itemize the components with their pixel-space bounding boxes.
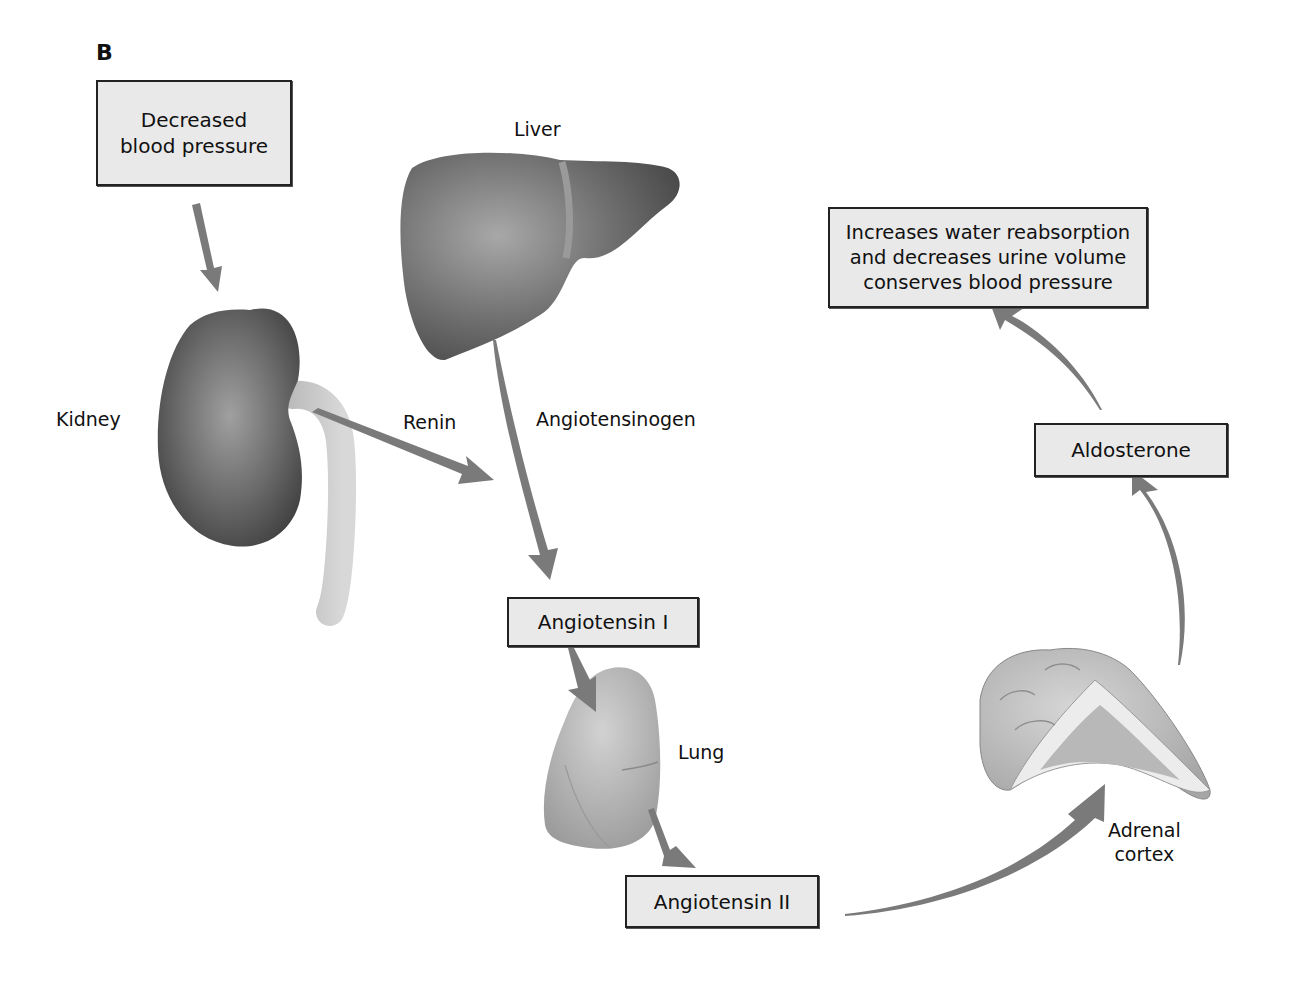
effect-line-1: Increases water reabsorption	[846, 220, 1130, 245]
arrow-bp-to-kidney	[192, 203, 222, 292]
angiotensin-1-box: Angiotensin I	[507, 597, 699, 647]
effect-line-3: conserves blood pressure	[863, 270, 1113, 295]
adrenal-label-line-1: Adrenal	[1108, 818, 1181, 842]
angiotensin-2-box: Angiotensin II	[625, 875, 819, 928]
aldosterone-box: Aldosterone	[1034, 423, 1228, 477]
angiotensin-2-label: Angiotensin II	[654, 889, 790, 915]
lung-label: Lung	[678, 740, 724, 764]
adrenal-cortex-label: Adrenal cortex	[1108, 818, 1181, 866]
adrenal-label-line-2: cortex	[1108, 842, 1181, 866]
panel-label: B	[96, 40, 113, 65]
liver-illustration	[400, 153, 679, 360]
adrenal-gland-illustration	[980, 648, 1210, 799]
effect-line-2: and decreases urine volume	[850, 245, 1127, 270]
decreased-blood-pressure-box: Decreased blood pressure	[96, 80, 292, 186]
kidney-label: Kidney	[56, 407, 121, 431]
arrow-angiotensinogen	[493, 340, 558, 580]
arrow-lung-to-angio2	[648, 808, 696, 868]
effect-box: Increases water reabsorption and decreas…	[828, 207, 1148, 308]
decreased-bp-line-1: Decreased	[141, 107, 247, 133]
arrow-angio2-to-adrenal	[845, 784, 1105, 916]
kidney-illustration	[158, 308, 342, 612]
liver-label: Liver	[514, 117, 561, 141]
decreased-bp-line-2: blood pressure	[120, 133, 268, 159]
angiotensinogen-label: Angiotensinogen	[536, 407, 696, 431]
lung-illustration	[544, 667, 660, 848]
arrow-adrenal-to-aldosterone	[1132, 470, 1185, 665]
aldosterone-label: Aldosterone	[1071, 437, 1191, 463]
angiotensin-1-label: Angiotensin I	[538, 609, 669, 635]
arrow-aldosterone-to-effect	[990, 303, 1102, 410]
renin-label: Renin	[403, 410, 456, 434]
